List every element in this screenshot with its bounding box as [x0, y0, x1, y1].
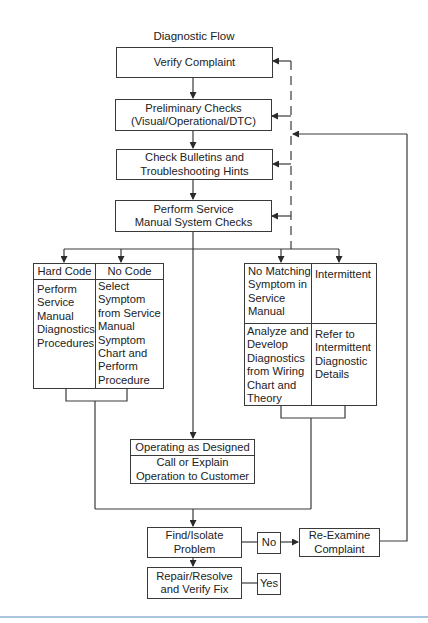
perform-service-box: Perform Service Manual System Checks	[115, 200, 272, 232]
check-bulletins-box: Check Bulletins and Troubleshooting Hint…	[116, 149, 273, 180]
preliminary-checks-box: Preliminary Checks (Visual/Operational/D…	[115, 99, 272, 131]
hard-code-header-label: Hard Code	[37, 265, 91, 278]
check-bulletins-label: Check Bulletins and Troubleshooting Hint…	[140, 151, 248, 178]
repair-resolve-label: Repair/Resolve and Verify Fix	[156, 570, 232, 597]
operating-body: Call or Explain Operation to Customer	[131, 456, 254, 483]
hard-code-body: Perform Service Manual Diagnostics Proce…	[37, 283, 95, 350]
find-isolate-box: Find/Isolate Problem	[147, 527, 242, 558]
intermittent-header: Intermittent	[315, 268, 377, 281]
verify-complaint-box: Verify Complaint	[116, 47, 273, 78]
no-code-body: Select Symptom from Service Manual Sympt…	[98, 280, 164, 387]
re-examine-complaint-box: Re-Examine Complaint	[299, 528, 380, 557]
intermittent-body: Refer to Intermittent Diagnostic Details	[315, 328, 377, 382]
no-decision-box: No	[257, 532, 281, 554]
no-matching-body: Analyze and Develop Diagnostics from Wir…	[247, 325, 311, 405]
verify-complaint-label: Verify Complaint	[154, 56, 235, 70]
code-branch-table: Hard Code No Code Perform Service Manual…	[33, 263, 164, 389]
operating-header: Operating as Designed	[131, 440, 254, 455]
preliminary-checks-label: Preliminary Checks (Visual/Operational/D…	[131, 102, 256, 129]
no-label: No	[262, 536, 276, 550]
hard-code-header: Hard Code	[34, 264, 95, 279]
operating-header-label: Operating as Designed	[135, 441, 249, 454]
operating-as-designed-box: Operating as Designed Call or Explain Op…	[130, 439, 255, 484]
bottom-divider	[0, 616, 428, 618]
diagram-title: Diagnostic Flow	[116, 30, 272, 42]
re-examine-label: Re-Examine Complaint	[309, 529, 371, 556]
no-code-header-label: No Code	[107, 265, 151, 278]
find-isolate-label: Find/Isolate Problem	[166, 529, 224, 556]
no-code-header: No Code	[96, 264, 163, 279]
yes-decision-box: Yes	[257, 573, 281, 595]
no-match-intermittent-table: No Matching Symptom in Service Manual In…	[244, 263, 377, 406]
perform-service-label: Perform Service Manual System Checks	[135, 203, 253, 230]
no-matching-header: No Matching Symptom in Service Manual	[248, 265, 314, 319]
repair-resolve-box: Repair/Resolve and Verify Fix	[147, 567, 242, 599]
yes-label: Yes	[260, 577, 278, 591]
